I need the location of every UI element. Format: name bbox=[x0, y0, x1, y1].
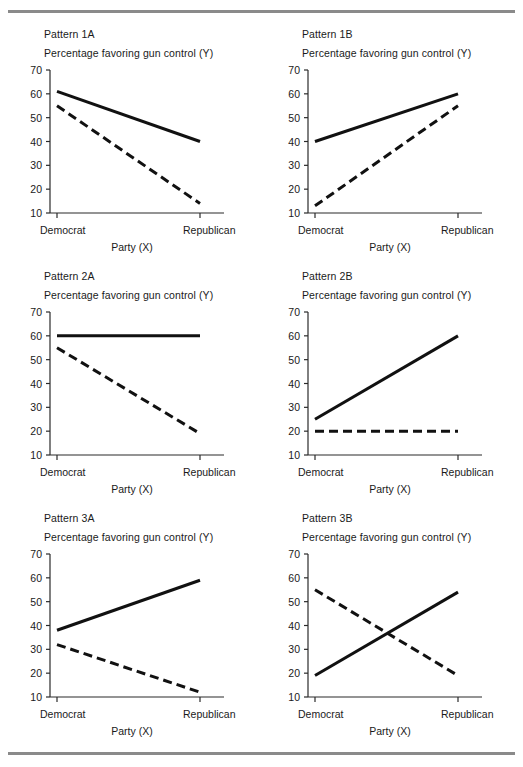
y-tick-label: 30 bbox=[30, 159, 42, 171]
x-axis-title: Party (X) bbox=[266, 483, 514, 495]
y-tick-label: 10 bbox=[30, 207, 42, 219]
x-axis-title: Party (X) bbox=[266, 725, 514, 737]
x-axis-title: Party (X) bbox=[266, 241, 514, 253]
series-line-dashed bbox=[57, 348, 200, 434]
x-tick-label-republican: Republican bbox=[441, 466, 494, 478]
y-tick-label: 60 bbox=[30, 330, 42, 342]
series-line-solid bbox=[315, 94, 458, 142]
x-tick-label-republican: Republican bbox=[441, 224, 494, 236]
top-divider-rule bbox=[8, 10, 515, 13]
chart-panel: Pattern 2APercentage favoring gun contro… bbox=[8, 264, 266, 514]
y-tick-label: 20 bbox=[30, 183, 42, 195]
y-tick-label: 40 bbox=[288, 378, 300, 390]
y-tick-label: 40 bbox=[288, 136, 300, 148]
y-tick-label: 50 bbox=[30, 112, 42, 124]
y-tick-label: 70 bbox=[288, 64, 300, 76]
panel-grid: Pattern 1APercentage favoring gun contro… bbox=[0, 22, 523, 748]
x-tick-label-democrat: Democrat bbox=[298, 224, 344, 236]
x-tick-label-republican: Republican bbox=[183, 708, 236, 720]
y-tick-label: 40 bbox=[30, 620, 42, 632]
series-line-solid bbox=[315, 336, 458, 419]
y-tick-label: 20 bbox=[30, 667, 42, 679]
chart-panel: Pattern 2BPercentage favoring gun contro… bbox=[266, 264, 523, 514]
y-tick-label: 50 bbox=[30, 596, 42, 608]
x-tick-label-democrat: Democrat bbox=[40, 466, 86, 478]
y-tick-label: 60 bbox=[288, 88, 300, 100]
y-tick-label: 70 bbox=[30, 306, 42, 318]
y-tick-label: 40 bbox=[30, 136, 42, 148]
y-tick-label: 50 bbox=[288, 354, 300, 366]
y-tick-label: 70 bbox=[288, 548, 300, 560]
y-tick-label: 10 bbox=[288, 449, 300, 461]
chart-panel: Pattern 1APercentage favoring gun contro… bbox=[8, 22, 266, 272]
x-tick-label-democrat: Democrat bbox=[40, 224, 86, 236]
chart-panel: Pattern 3APercentage favoring gun contro… bbox=[8, 506, 266, 756]
x-axis-title: Party (X) bbox=[8, 725, 256, 737]
y-tick-label: 20 bbox=[288, 425, 300, 437]
x-tick-label-democrat: Democrat bbox=[40, 708, 86, 720]
y-tick-label: 10 bbox=[30, 449, 42, 461]
x-tick-label-democrat: Democrat bbox=[298, 708, 344, 720]
y-tick-label: 30 bbox=[288, 159, 300, 171]
x-tick-label-republican: Republican bbox=[441, 708, 494, 720]
y-tick-label: 70 bbox=[288, 306, 300, 318]
y-tick-label: 30 bbox=[30, 643, 42, 655]
y-tick-label: 40 bbox=[288, 620, 300, 632]
y-tick-label: 10 bbox=[288, 207, 300, 219]
y-tick-label: 70 bbox=[30, 64, 42, 76]
series-line-dashed bbox=[57, 106, 200, 204]
y-tick-label: 50 bbox=[288, 596, 300, 608]
y-tick-label: 20 bbox=[30, 425, 42, 437]
y-tick-label: 60 bbox=[30, 88, 42, 100]
y-tick-label: 10 bbox=[288, 691, 300, 703]
y-tick-label: 50 bbox=[30, 354, 42, 366]
y-tick-label: 60 bbox=[288, 330, 300, 342]
x-axis-title: Party (X) bbox=[8, 241, 256, 253]
x-tick-label-republican: Republican bbox=[183, 466, 236, 478]
y-tick-label: 50 bbox=[288, 112, 300, 124]
x-axis-title: Party (X) bbox=[8, 483, 256, 495]
series-line-dashed bbox=[315, 106, 458, 206]
series-line-solid bbox=[57, 580, 200, 630]
x-tick-label-republican: Republican bbox=[183, 224, 236, 236]
y-tick-label: 20 bbox=[288, 667, 300, 679]
y-tick-label: 60 bbox=[30, 572, 42, 584]
y-tick-label: 30 bbox=[288, 643, 300, 655]
x-tick-label-democrat: Democrat bbox=[298, 466, 344, 478]
series-line-solid bbox=[57, 91, 200, 141]
y-tick-label: 20 bbox=[288, 183, 300, 195]
series-line-dashed bbox=[57, 645, 200, 693]
chart-panel: Pattern 3BPercentage favoring gun contro… bbox=[266, 506, 523, 756]
y-tick-label: 30 bbox=[288, 401, 300, 413]
chart-panel: Pattern 1BPercentage favoring gun contro… bbox=[266, 22, 523, 272]
y-tick-label: 40 bbox=[30, 378, 42, 390]
y-tick-label: 70 bbox=[30, 548, 42, 560]
y-tick-label: 60 bbox=[288, 572, 300, 584]
y-tick-label: 30 bbox=[30, 401, 42, 413]
y-tick-label: 10 bbox=[30, 691, 42, 703]
